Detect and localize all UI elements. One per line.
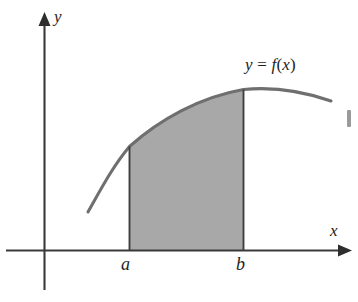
function-label: y = f(x) bbox=[245, 56, 296, 73]
function-label-y: y bbox=[245, 55, 253, 74]
function-label-equals: = bbox=[253, 55, 272, 74]
y-axis-label: y bbox=[54, 8, 62, 25]
lower-limit-label-a: a bbox=[121, 255, 130, 273]
y-axis-arrow-icon bbox=[39, 12, 51, 26]
integral-diagram-svg bbox=[0, 0, 358, 302]
x-axis-arrow-icon bbox=[338, 245, 352, 257]
page-edge-speck bbox=[347, 110, 351, 127]
function-label-close-paren: ) bbox=[290, 55, 296, 74]
shaded-area-region bbox=[130, 90, 244, 251]
upper-limit-label-b: b bbox=[236, 255, 245, 273]
figure-canvas: y x a b y = f(x) bbox=[0, 0, 358, 302]
x-axis-label: x bbox=[330, 222, 338, 239]
function-label-x: x bbox=[282, 55, 290, 74]
